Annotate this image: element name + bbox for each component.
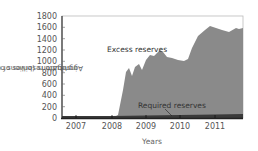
excess-reserves-label: Excess reserves (107, 45, 167, 54)
x-tick-label: 2011 (205, 122, 225, 131)
required-reserves-label: Required reserves (138, 101, 206, 110)
x-tick-label: 2009 (136, 122, 156, 131)
x-tick-label: 2010 (170, 122, 190, 131)
x-axis-title: Years (142, 137, 162, 146)
x-tick-label: 2008 (102, 122, 122, 131)
x-tick-label: 2007 (66, 122, 86, 131)
